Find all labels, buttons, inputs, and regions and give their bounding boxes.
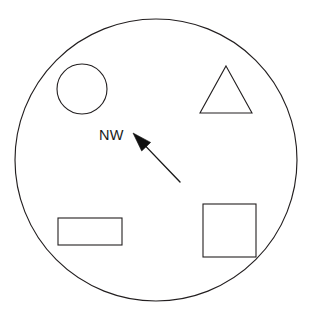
shape-rectangle: [58, 218, 122, 245]
shape-square: [203, 204, 256, 257]
outer-boundary-circle: [15, 19, 297, 301]
shape-circle: [57, 64, 107, 114]
diagram-root: NW: [0, 0, 313, 322]
shape-triangle: [200, 66, 252, 113]
diagram-canvas: NW: [0, 0, 313, 322]
nw-arrow-shaft: [142, 142, 180, 182]
nw-direction-label: NW: [99, 127, 124, 143]
